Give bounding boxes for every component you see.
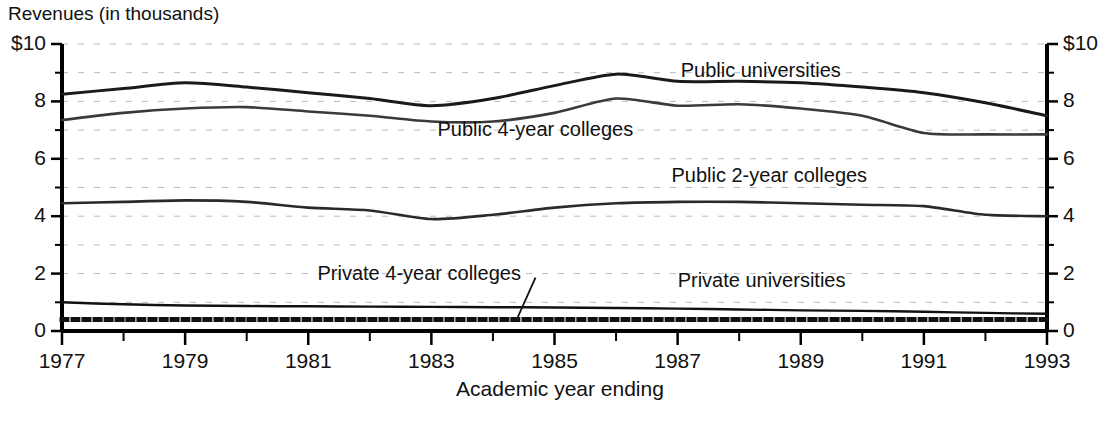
y-axis-right-tick-label: 4 [1063, 203, 1075, 227]
series-label-private-4-year-colleges: Private 4-year colleges [317, 262, 520, 285]
y-axis-left-tick-label: 2 [0, 261, 46, 285]
x-axis-tick-label: 1987 [628, 349, 728, 373]
x-axis-tick-label: 1981 [258, 349, 358, 373]
y-axis-right-tick-label: 6 [1063, 146, 1075, 170]
tick-marks-group [51, 44, 1058, 345]
y-axis-right-tick-label: $10 [1063, 31, 1098, 55]
y-axis-right-tick-label: 2 [1063, 261, 1075, 285]
x-axis-tick-label: 1983 [381, 349, 481, 373]
series-line-private-universities [62, 302, 1047, 313]
series-label-public-2-year-colleges: Public 2-year colleges [671, 164, 867, 187]
series-line-public-universities [62, 74, 1047, 116]
y-axis-right-tick-label: 0 [1063, 318, 1075, 342]
x-axis-title: Academic year ending [0, 376, 1120, 401]
y-axis-left-tick-label: 0 [0, 318, 46, 342]
y-axis-left-tick-label: 4 [0, 203, 46, 227]
x-axis-tick-label: 1989 [751, 349, 851, 373]
x-axis-tick-label: 1979 [135, 349, 235, 373]
x-axis-tick-label: 1991 [874, 349, 974, 373]
y-axis-right-tick-label: 8 [1063, 88, 1075, 112]
y-axis-left-tick-label: 8 [0, 88, 46, 112]
x-axis-tick-label: 1985 [505, 349, 605, 373]
revenue-line-chart-figure: Revenues (in thousands) $1086420 $108642… [0, 0, 1120, 424]
y-axis-left-tick-label: $10 [0, 31, 46, 55]
x-axis-tick-label: 1977 [12, 349, 112, 373]
data-series-group [62, 74, 1047, 319]
y-axis-left-tick-label: 6 [0, 146, 46, 170]
x-axis-tick-label: 1993 [997, 349, 1097, 373]
series-label-public-universities: Public universities [681, 59, 841, 82]
series-label-private-universities: Private universities [678, 269, 846, 292]
series-label-public-4-year-colleges: Public 4-year colleges [438, 118, 634, 141]
